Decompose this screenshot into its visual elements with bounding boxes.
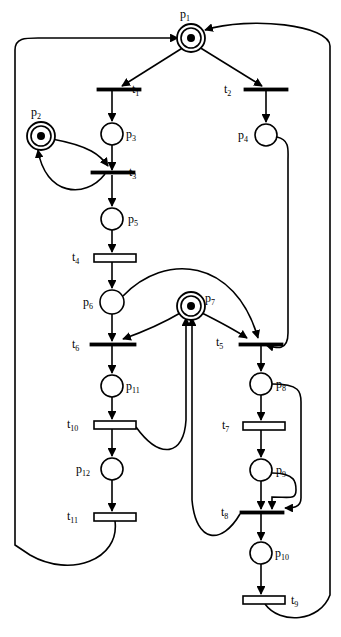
transition-label-t2: t2	[224, 83, 231, 98]
token-p7	[187, 302, 195, 310]
arc-p2-to-t3	[52, 139, 108, 166]
transition-t4[interactable]	[94, 254, 136, 262]
place-label-p1: p1	[180, 8, 190, 23]
transition-t11[interactable]	[94, 513, 136, 521]
petri-net-diagram: t1t2t3t4t5t6t7t8t9t10t11p1p2p3p4p5p6p7p8…	[0, 0, 341, 637]
place-p6[interactable]	[100, 290, 124, 314]
token-p1	[187, 34, 195, 42]
place-p7[interactable]	[177, 292, 205, 320]
arc-t3-to-p2	[38, 150, 105, 190]
place-p4[interactable]	[255, 124, 277, 146]
place-label-p12: p12	[76, 463, 90, 478]
place-label-p3: p3	[126, 128, 136, 143]
transition-label-t5: t5	[216, 336, 223, 351]
transition-t6[interactable]	[90, 343, 136, 346]
arc-layer	[15, 23, 330, 618]
token-p2	[37, 132, 45, 140]
place-p9[interactable]	[250, 459, 272, 481]
place-label-p9: p9	[276, 464, 286, 479]
transition-label-t8: t8	[221, 506, 228, 521]
place-p1[interactable]	[177, 24, 205, 52]
transition-label-t4: t4	[72, 251, 79, 266]
transition-label-t11: t11	[67, 510, 78, 525]
transition-t9[interactable]	[243, 596, 285, 604]
place-label-p4: p4	[238, 129, 248, 144]
arc-t9-to-p1	[205, 23, 330, 618]
place-p8[interactable]	[250, 373, 272, 395]
place-label-p7: p7	[205, 292, 215, 307]
transition-t8[interactable]	[240, 511, 284, 514]
arc-p1-to-t1	[122, 47, 184, 86]
arc-p7-to-t6	[123, 312, 182, 339]
place-label-p11: p11	[126, 380, 140, 395]
place-label-p5: p5	[128, 213, 138, 228]
transition-label-t10: t10	[67, 418, 78, 433]
place-p3[interactable]	[101, 123, 123, 145]
transition-t2[interactable]	[244, 88, 288, 91]
transition-label-t6: t6	[72, 338, 79, 353]
arc-p7-to-t5	[200, 312, 247, 338]
transition-t10[interactable]	[94, 421, 136, 429]
transition-t5[interactable]	[239, 343, 283, 346]
place-p10[interactable]	[250, 542, 272, 564]
place-label-p8: p8	[276, 378, 286, 393]
place-p2[interactable]	[27, 122, 55, 150]
place-p5[interactable]	[101, 208, 123, 230]
transition-label-t3: t3	[129, 166, 136, 181]
arc-p4-to-t5	[266, 137, 288, 348]
transition-t7[interactable]	[243, 422, 285, 430]
petri-net-canvas	[0, 0, 341, 637]
place-label-p10: p10	[275, 547, 289, 562]
transition-label-t9: t9	[291, 594, 298, 609]
arc-t10-to-p7	[136, 318, 186, 450]
transition-label-t1: t1	[132, 83, 139, 98]
transition-label-t7: t7	[222, 419, 229, 434]
place-p12[interactable]	[101, 458, 123, 480]
place-label-p6: p6	[83, 296, 93, 311]
arc-p1-to-t2	[199, 47, 262, 86]
place-p11[interactable]	[101, 375, 123, 397]
place-label-p2: p2	[31, 106, 41, 121]
